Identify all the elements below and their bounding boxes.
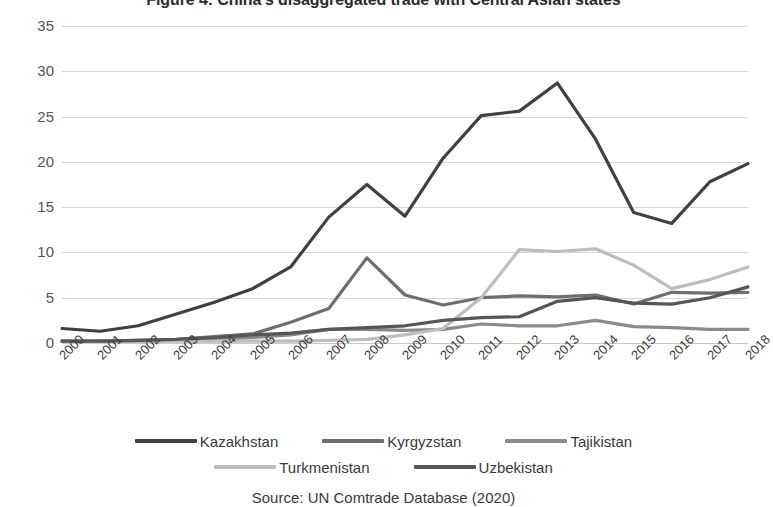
x-axis-ticks: 2000200120022003200420052006200720082009…: [62, 346, 748, 404]
legend-swatch-icon: [322, 439, 384, 443]
legend-item-tajikistan[interactable]: Tajikistan: [505, 433, 632, 450]
chart-title: Figure 4: China's disaggregated trade wi…: [0, 0, 767, 9]
y-axis-tick-label: 10: [18, 244, 54, 259]
legend: KazakhstanKyrgyzstanTajikistan Turkmenis…: [0, 428, 767, 480]
series-lines: [62, 26, 748, 343]
legend-swatch-icon: [414, 465, 476, 469]
legend-item-uzbekistan[interactable]: Uzbekistan: [414, 459, 553, 476]
legend-row-secondary: TurkmenistanUzbekistan: [0, 454, 767, 480]
legend-label: Kazakhstan: [200, 433, 278, 450]
legend-row-primary: KazakhstanKyrgyzstanTajikistan: [0, 428, 767, 454]
y-axis-tick-label: 25: [18, 109, 54, 124]
y-axis-tick-label: 5: [18, 290, 54, 305]
legend-label: Turkmenistan: [279, 459, 369, 476]
legend-swatch-icon: [214, 465, 276, 469]
y-axis-tick-label: 20: [18, 154, 54, 169]
legend-label: Tajikistan: [570, 433, 632, 450]
legend-item-turkmenistan[interactable]: Turkmenistan: [214, 459, 369, 476]
y-axis-tick-label: 15: [18, 199, 54, 214]
legend-label: Uzbekistan: [479, 459, 553, 476]
legend-item-kazakhstan[interactable]: Kazakhstan: [135, 433, 278, 450]
legend-item-kyrgyzstan[interactable]: Kyrgyzstan: [322, 433, 461, 450]
source-note: Source: UN Comtrade Database (2020): [0, 489, 767, 506]
y-axis-tick-label: 35: [18, 18, 54, 33]
legend-swatch-icon: [135, 439, 197, 443]
y-axis-tick-label: 0: [18, 335, 54, 350]
plot-area: [62, 26, 748, 343]
legend-swatch-icon: [505, 439, 567, 443]
y-axis-tick-label: 30: [18, 63, 54, 78]
legend-label: Kyrgyzstan: [387, 433, 461, 450]
